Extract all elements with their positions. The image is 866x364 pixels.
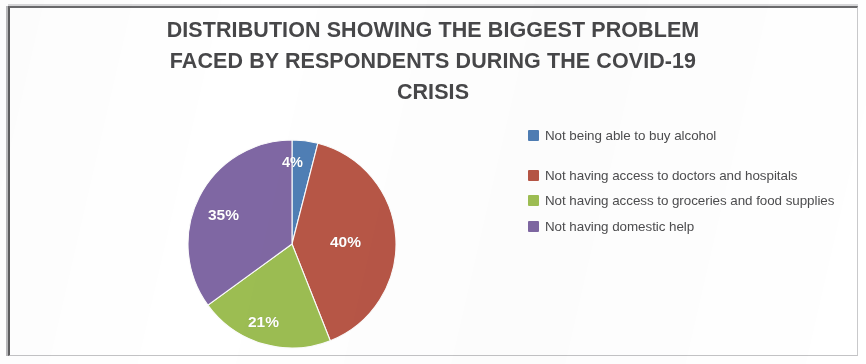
chart-title-line-3: CRISIS bbox=[52, 76, 814, 107]
chart-legend: Not being able to buy alcohol Not having… bbox=[528, 127, 844, 243]
legend-item-domestic-help[interactable]: Not having domestic help bbox=[528, 218, 844, 236]
legend-item-groceries-food[interactable]: Not having access to groceries and food … bbox=[528, 192, 844, 210]
legend-item-doctors-hospitals[interactable]: Not having access to doctors and hospita… bbox=[528, 167, 844, 185]
legend-swatch-icon-2 bbox=[528, 195, 539, 206]
legend-item-label-1: Not having access to doctors and hospita… bbox=[545, 167, 797, 185]
legend-item-alcohol[interactable]: Not being able to buy alcohol bbox=[528, 127, 844, 145]
pie-chart-plot-area: 4% 40% 21% 35% bbox=[186, 138, 400, 352]
legend-item-label-2: Not having access to groceries and food … bbox=[545, 192, 834, 210]
chart-title: DISTRIBUTION SHOWING THE BIGGEST PROBLEM… bbox=[52, 14, 814, 107]
legend-item-label-3: Not having domestic help bbox=[545, 218, 694, 236]
chart-page: DISTRIBUTION SHOWING THE BIGGEST PROBLEM… bbox=[0, 0, 866, 364]
pie-chart-svg bbox=[186, 138, 398, 350]
legend-swatch-icon-0 bbox=[528, 130, 539, 141]
pie-chart bbox=[186, 138, 398, 350]
chart-title-line-1: DISTRIBUTION SHOWING THE BIGGEST PROBLEM bbox=[52, 14, 814, 45]
legend-item-label-0: Not being able to buy alcohol bbox=[545, 127, 716, 145]
legend-swatch-icon-1 bbox=[528, 170, 539, 181]
chart-title-line-2: FACED BY RESPONDENTS DURING THE COVID-19 bbox=[52, 45, 814, 76]
legend-swatch-icon-3 bbox=[528, 221, 539, 232]
